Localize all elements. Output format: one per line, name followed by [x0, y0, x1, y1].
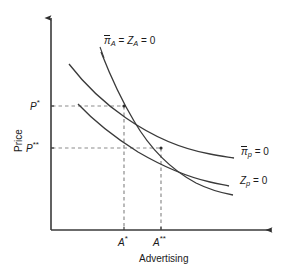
- intersection-point-1: [122, 104, 125, 107]
- curve-label-z-a-sep2: = 0: [138, 35, 155, 46]
- x-axis-title: Advertising: [139, 254, 188, 264]
- y-tick-label-p-double-star-base: P: [26, 143, 33, 154]
- x-tick-label-a-star-base: A: [118, 237, 125, 248]
- x-tick-label-a-star-stars: *: [125, 234, 128, 243]
- y-tick-label-p-star: P*: [30, 100, 40, 112]
- x-tick-label-a-star: A*: [118, 236, 128, 248]
- curve-label-pi-p-sep: = 0: [252, 146, 269, 157]
- y-tick-label-p-star-stars: *: [37, 98, 40, 107]
- intersection-point-2: [159, 146, 162, 149]
- curve-pi-p: [69, 64, 234, 158]
- economics-diagram: πA = ZA = 0 πp = 0 Zp = 0 P* P** A* A** …: [0, 0, 285, 272]
- y-tick-label-p-star-base: P: [30, 101, 37, 112]
- curve-label-pi-a-z-a: πA = ZA = 0: [104, 36, 155, 46]
- y-tick-label-p-double-star-stars: **: [33, 140, 39, 149]
- curve-label-z-p: Zp = 0: [240, 176, 267, 186]
- x-tick-label-a-double-star-stars: **: [160, 234, 166, 243]
- y-tick-label-p-double-star: P**: [26, 142, 39, 154]
- curve-label-pi-a-sep1: =: [116, 35, 127, 46]
- y-axis-title: Price: [14, 129, 24, 152]
- curve-label-z-a-subscript: A: [133, 39, 138, 48]
- curve-label-pi-p-subscript: p: [248, 150, 252, 159]
- curve-pi-a-z-a: [101, 52, 233, 195]
- curve-label-pi-a-subscript: A: [111, 39, 116, 48]
- curve-label-z-p-subscript: p: [246, 179, 250, 188]
- curve-label-pi-p: πp = 0: [241, 147, 269, 157]
- x-tick-label-a-double-star: A**: [153, 236, 166, 248]
- x-tick-label-a-double-star-base: A: [153, 237, 160, 248]
- curve-label-pi-p-symbol: π: [241, 147, 248, 157]
- curve-z-p: [78, 104, 229, 186]
- curve-label-z-p-sep: = 0: [250, 175, 267, 186]
- curve-label-pi-a-symbol: π: [104, 36, 111, 46]
